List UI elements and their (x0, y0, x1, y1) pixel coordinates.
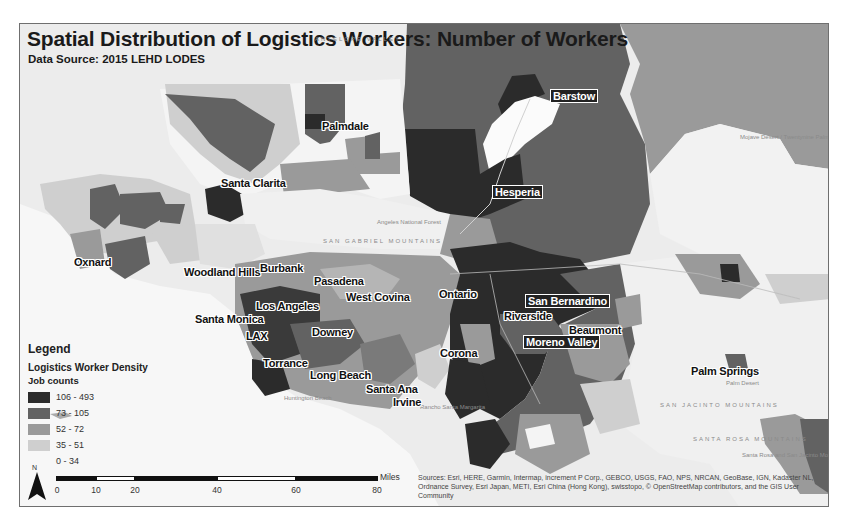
city-label-hesperia: Hesperia (492, 185, 543, 199)
scale-unit: Miles (380, 472, 400, 482)
scale-tick: 80 (372, 485, 381, 495)
attribution-text: Sources: Esri, HERE, Garmin, Intermap, i… (418, 473, 823, 500)
city-label-barstow: Barstow (550, 89, 598, 103)
legend-class-2: 73 - 105 (28, 405, 148, 421)
legend-swatch (28, 440, 50, 451)
legend-label: 0 - 34 (56, 456, 79, 466)
city-label-san-bernardino: San Bernardino (525, 294, 610, 308)
city-label-palm-springs: Palm Springs (691, 365, 759, 377)
legend-label: 52 - 72 (56, 424, 84, 434)
scale-tick: 20 (130, 485, 139, 495)
map-frame: Spatial Distribution of Logistics Worker… (19, 23, 829, 507)
place-label: Santa Rosa and San Jacinto Mountains (742, 452, 829, 459)
city-label-palmdale: Palmdale (322, 120, 369, 132)
place-label: Palm Desert (726, 380, 759, 387)
city-label-los-angeles: Los Angeles (256, 300, 319, 312)
city-label-santa-ana: Santa Ana (366, 383, 418, 395)
legend-swatch (28, 392, 50, 403)
physical-label: ANTELOPE VALLEY (315, 36, 401, 42)
legend-label: 106 - 493 (56, 392, 94, 402)
legend-class-1: 106 - 493 (28, 389, 148, 405)
scale-tick: 60 (291, 485, 300, 495)
city-label-irvine: Irvine (393, 396, 421, 408)
legend-label: 35 - 51 (56, 440, 84, 450)
city-label-torrance: Torrance (263, 357, 308, 369)
city-label-riverside: Riverside (504, 310, 552, 322)
legend-class-3: 52 - 72 (28, 421, 148, 437)
city-label-moreno-valley: Moreno Valley (523, 335, 600, 349)
city-label-long-beach: Long Beach (310, 369, 371, 381)
legend-field-name: Job counts (28, 375, 148, 386)
legend-layer-name: Logistics Worker Density (28, 362, 148, 373)
legend-title: Legend (28, 342, 148, 356)
city-label-pasadena: Pasadena (314, 275, 364, 287)
city-label-ontario: Ontario (439, 288, 477, 300)
place-label: Mojave Desert / Twentynine Palms (740, 134, 829, 141)
city-label-downey: Downey (312, 326, 353, 338)
city-label-lax: LAX (246, 330, 267, 342)
place-label: Huntington Beach (284, 395, 332, 402)
physical-label: SAN JACINTO MOUNTAINS (660, 402, 779, 408)
scale-tick: 10 (91, 485, 100, 495)
city-label-corona: Corona (440, 347, 477, 359)
map-subtitle: Data Source: 2015 LEHD LODES (28, 53, 205, 65)
legend: Legend Logistics Worker Density Job coun… (28, 342, 148, 469)
city-label-burbank: Burbank (260, 262, 303, 274)
place-label: Rancho Santa Margarita (420, 404, 485, 411)
physical-label: SANTA ROSA MOUNTAINS (693, 436, 808, 442)
legend-class-4: 35 - 51 (28, 437, 148, 453)
place-label: Angeles National Forest (377, 219, 441, 226)
city-label-woodland-hills: Woodland Hills (184, 266, 260, 278)
legend-label: 73 - 105 (56, 408, 89, 418)
city-label-santa-clarita: Santa Clarita (221, 177, 286, 189)
legend-swatch (28, 424, 50, 435)
legend-swatch (28, 408, 50, 419)
city-label-santa-monica: Santa Monica (195, 313, 264, 325)
city-label-oxnard: Oxnard (74, 256, 111, 268)
city-label-west-covina: West Covina (346, 291, 410, 303)
physical-label: SAN GABRIEL MOUNTAINS (323, 238, 442, 244)
north-arrow-icon (26, 466, 48, 504)
scale-tick: 0 (55, 485, 60, 495)
scale-tick: 40 (212, 485, 221, 495)
